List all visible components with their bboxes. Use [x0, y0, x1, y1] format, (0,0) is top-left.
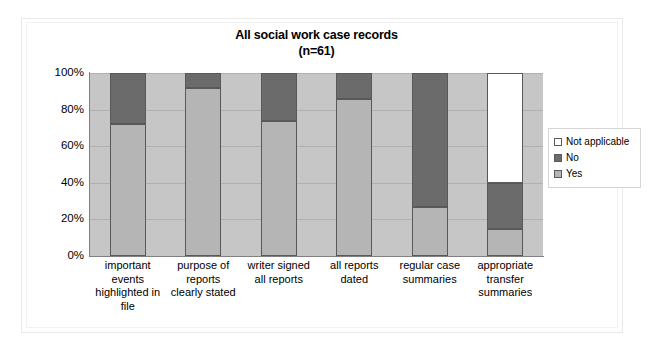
x-axis-category-label: purpose ofreportsclearly stated [160, 259, 248, 300]
legend-swatch-icon [554, 138, 562, 146]
legend-label: Not applicable [566, 136, 629, 147]
bar-group[interactable] [317, 73, 393, 256]
bar-segment-no[interactable] [336, 73, 372, 99]
x-axis-category-label: appropriatetransfersummaries [462, 259, 550, 300]
bar-segment-no[interactable] [412, 73, 448, 207]
stacked-bar[interactable] [185, 73, 221, 256]
bar-segment-yes[interactable] [185, 88, 221, 256]
bar-group[interactable] [166, 73, 242, 256]
chart-figure: All social work case records (n=61) 100%… [0, 0, 648, 351]
chart-subtitle: (n=61) [90, 43, 543, 59]
y-axis-tick-label: 100% [42, 66, 84, 78]
stacked-bar[interactable] [110, 73, 146, 256]
x-axis-category-label: regular casesummaries [386, 259, 474, 286]
bar-segment-yes[interactable] [336, 99, 372, 256]
legend-item[interactable]: No [554, 150, 636, 165]
x-axis-category-line: regular case [386, 259, 474, 273]
bar-group[interactable] [241, 73, 317, 256]
bar-segment-yes[interactable] [110, 124, 146, 256]
x-axis-category-line: appropriate [462, 259, 550, 273]
bar-group[interactable] [468, 73, 544, 256]
x-axis-category-label: all reportsdated [311, 259, 399, 286]
bar-segment-no[interactable] [487, 183, 523, 229]
y-axis-tick-label: 80% [42, 103, 84, 115]
x-axis-category-line: summaries [386, 273, 474, 287]
bar-group[interactable] [90, 73, 166, 256]
chart-legend: Not applicableNoYes [548, 128, 641, 188]
legend-label: Yes [566, 168, 582, 179]
stacked-bar[interactable] [336, 73, 372, 256]
bar-segment-yes[interactable] [261, 121, 297, 256]
legend-label: No [566, 152, 579, 163]
y-axis-tick-label: 60% [42, 139, 84, 151]
bar-segment-no[interactable] [261, 73, 297, 121]
chart-title-block: All social work case records (n=61) [90, 27, 543, 59]
plot-area [90, 73, 543, 256]
x-axis-line [89, 256, 544, 257]
x-axis-category-line: highlighted in [84, 286, 172, 300]
bar-segment-not-applicable[interactable] [487, 73, 523, 183]
x-axis-category-label: writer signedall reports [235, 259, 323, 286]
x-axis-category-line: clearly stated [160, 286, 248, 300]
x-axis-category-line: summaries [462, 286, 550, 300]
x-axis-category-line: reports [160, 273, 248, 287]
x-axis-category-label: importanteventshighlighted infile [84, 259, 172, 313]
x-axis-category-line: important [84, 259, 172, 273]
x-axis-category-line: writer signed [235, 259, 323, 273]
x-axis-category-line: dated [311, 273, 399, 287]
x-axis-category-line: file [84, 300, 172, 314]
y-axis-labels: 100%80%60%40%20%0% [38, 73, 84, 256]
bar-segment-no[interactable] [185, 73, 221, 88]
bar-group[interactable] [392, 73, 468, 256]
bar-segment-no[interactable] [110, 73, 146, 124]
stacked-bar[interactable] [261, 73, 297, 256]
legend-item[interactable]: Yes [554, 166, 636, 181]
y-axis-tick-label: 20% [42, 212, 84, 224]
stacked-bar[interactable] [412, 73, 448, 256]
x-axis-category-line: all reports [235, 273, 323, 287]
x-axis-category-line: events [84, 273, 172, 287]
chart-title: All social work case records [90, 27, 543, 43]
legend-swatch-icon [554, 170, 562, 178]
y-axis-tick-label: 0% [42, 249, 84, 261]
legend-swatch-icon [554, 154, 562, 162]
bar-segment-yes[interactable] [487, 229, 523, 256]
bar-segment-yes[interactable] [412, 207, 448, 256]
x-axis-category-line: purpose of [160, 259, 248, 273]
x-axis-labels: importanteventshighlighted infilepurpose… [90, 259, 543, 329]
x-axis-category-line: all reports [311, 259, 399, 273]
stacked-bar[interactable] [487, 73, 523, 256]
x-axis-category-line: transfer [462, 273, 550, 287]
legend-item[interactable]: Not applicable [554, 134, 636, 149]
y-axis-tick-label: 40% [42, 176, 84, 188]
